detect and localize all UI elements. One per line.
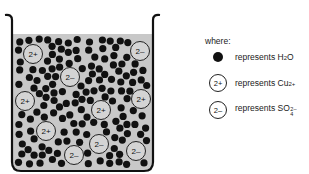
formula-cu2plus: Cu2+: [278, 78, 296, 88]
legend-item-water: represents H2O: [207, 47, 294, 67]
svg-text:2–: 2–: [66, 73, 75, 82]
water-molecule-icon: [213, 52, 223, 62]
legend-intro: where:: [205, 36, 231, 46]
sulfate-ion: 2–: [131, 42, 150, 61]
svg-text:2+: 2+: [41, 127, 50, 136]
svg-text:2+: 2+: [96, 106, 105, 115]
sulfate-ion: 2–: [90, 135, 109, 154]
formula-so4-2minus: SO2–4: [278, 103, 297, 117]
copper-ion: 2+: [132, 90, 151, 109]
copper-ion: 2+: [92, 101, 111, 120]
svg-text:2+: 2+: [20, 97, 29, 106]
sulfate-ion: 2–: [127, 142, 146, 161]
svg-text:2+: 2+: [136, 95, 145, 104]
legend-item-sulfate: 2– represents SO2–4: [207, 100, 296, 120]
sulfate-ion: 2–: [61, 68, 80, 87]
sulfate-ion-icon: 2–: [209, 101, 227, 119]
legend: where: represents H2O 2+ represents Cu2+…: [195, 0, 309, 174]
sulfate-ion: 2–: [65, 146, 84, 165]
svg-text:2–: 2–: [136, 47, 145, 56]
formula-h2o: H2O: [278, 52, 294, 62]
svg-text:2–: 2–: [132, 147, 141, 156]
copper-ion: 2+: [16, 92, 35, 111]
copper-ion: 2+: [37, 122, 56, 141]
copper-ion: 2+: [24, 45, 43, 64]
copper-ion-icon: 2+: [209, 74, 227, 92]
beaker-diagram: 2+2–2–2+2+2+2+2–2–2–: [0, 0, 195, 174]
legend-item-copper: 2+ represents Cu2+: [207, 73, 295, 93]
svg-text:2–: 2–: [70, 151, 79, 160]
svg-text:2+: 2+: [28, 50, 37, 59]
svg-text:2–: 2–: [95, 140, 104, 149]
